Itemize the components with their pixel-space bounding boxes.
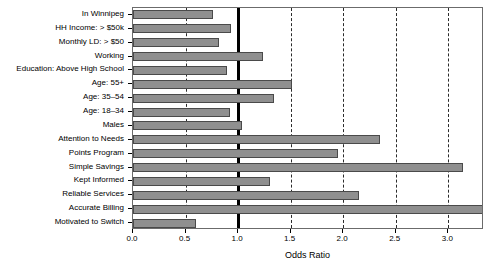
y-axis-tick-label: In Winnipeg <box>82 10 124 18</box>
x-axis-tick-label: 2.0 <box>337 234 348 243</box>
x-axis-tick-label: 1.0 <box>232 234 243 243</box>
x-axis-title: Odds Ratio <box>132 250 483 260</box>
bar <box>133 10 213 19</box>
y-axis-tick-label: Males <box>103 121 124 129</box>
bar <box>133 38 219 47</box>
y-axis-tick-label: Accurate Billing <box>69 204 124 212</box>
y-axis-tick-label: Attention to Needs <box>58 135 124 143</box>
bar <box>133 177 270 186</box>
bar-series <box>133 8 482 228</box>
x-axis-tick-label: 1.5 <box>284 234 295 243</box>
bar <box>133 52 263 61</box>
x-axis-tick-label: 0.5 <box>179 234 190 243</box>
y-axis-labels: In WinnipegHH Income: > $50kMonthly LD: … <box>0 7 128 229</box>
y-axis-tick-label: Simple Savings <box>69 163 124 171</box>
x-axis-tick-label: 2.5 <box>389 234 400 243</box>
odds-ratio-bar-chart: In WinnipegHH Income: > $50kMonthly LD: … <box>0 0 497 272</box>
x-axis-tick <box>447 229 448 233</box>
bar <box>133 135 380 144</box>
x-axis-tick <box>237 229 238 233</box>
x-axis-tick <box>132 229 133 233</box>
y-axis-tick-label: Age: 35–54 <box>83 93 124 101</box>
x-axis-tick-label: 0.0 <box>126 234 137 243</box>
bar <box>133 149 338 158</box>
bar <box>133 191 359 200</box>
bar <box>133 108 230 117</box>
bar <box>133 94 274 103</box>
x-axis-tick <box>185 229 186 233</box>
y-axis-tick-label: Motivated to Switch <box>55 218 124 226</box>
y-axis-tick-label: Age: 18–34 <box>83 107 124 115</box>
x-axis-tick <box>342 229 343 233</box>
y-axis-tick-label: Monthly LD: > $50 <box>59 38 124 46</box>
y-axis-tick-label: Kept Informed <box>74 176 124 184</box>
plot-area <box>132 7 483 229</box>
y-axis-tick-label: Age: 55+ <box>92 79 124 87</box>
x-axis-tick <box>290 229 291 233</box>
x-axis-tick-label: 3.0 <box>442 234 453 243</box>
bar <box>133 219 196 228</box>
bar <box>133 66 227 75</box>
x-axis-tick <box>395 229 396 233</box>
x-axis: Odds Ratio 0.00.51.01.52.02.53.0 <box>132 229 483 269</box>
y-axis-tick-label: Education: Above High School <box>16 65 124 73</box>
bar <box>133 163 463 172</box>
bar <box>133 24 231 33</box>
y-axis-tick-label: HH Income: > $50k <box>55 24 124 32</box>
y-axis-tick-label: Reliable Services <box>62 190 124 198</box>
y-axis-tick-label: Points Program <box>69 149 124 157</box>
y-axis-tick-label: Working <box>95 52 124 60</box>
bar <box>133 205 483 214</box>
bar <box>133 80 292 89</box>
bar <box>133 121 242 130</box>
